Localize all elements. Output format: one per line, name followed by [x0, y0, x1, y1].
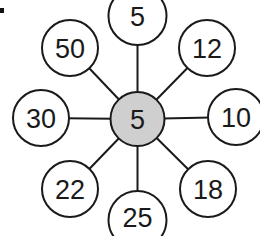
node-label: 50	[55, 34, 85, 64]
center-label: 5	[130, 105, 145, 135]
node-bottom-right: 18	[180, 161, 236, 217]
node-label: 30	[26, 104, 56, 134]
node-bottom: 25	[109, 191, 167, 236]
node-label: 22	[55, 175, 85, 205]
node-top-left: 50	[42, 20, 98, 76]
node-label: 12	[192, 34, 222, 64]
node-right: 10	[208, 89, 260, 145]
node-label: 5	[130, 2, 145, 32]
star-diagram: 5 12 10 18 25 22 30 50 5	[0, 0, 260, 236]
node-top: 5	[109, 0, 167, 45]
node-left: 30	[13, 90, 69, 146]
node-label: 10	[221, 103, 251, 133]
bullet-mark	[0, 8, 4, 13]
node-label: 18	[193, 175, 223, 205]
node-label: 25	[122, 203, 152, 233]
node-bottom-left: 22	[42, 161, 98, 217]
node-top-right: 12	[179, 20, 235, 76]
node-center: 5	[111, 92, 165, 146]
